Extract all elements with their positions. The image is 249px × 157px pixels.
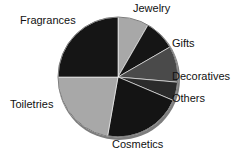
pie-slice-label-jewelry: Jewelry: [133, 2, 170, 14]
pie-slice-fragrances[interactable]: [58, 17, 118, 77]
pie-slice-toiletries[interactable]: [58, 77, 118, 136]
pie-slice-label-decoratives: Decoratives: [172, 70, 230, 82]
pie-slice-label-toiletries: Toiletries: [10, 98, 53, 110]
pie-chart-figure: Jewelry Fragrances Gifts Decoratives Oth…: [0, 0, 249, 157]
pie-slice-label-cosmetics: Cosmetics: [112, 138, 163, 150]
pie-slice-label-others: Others: [172, 92, 205, 104]
pie-slice-label-fragrances: Fragrances: [20, 14, 76, 26]
pie-chart-page: Jewelry Fragrances Gifts Decoratives Oth…: [0, 0, 249, 157]
pie-slice-label-gifts: Gifts: [172, 37, 195, 49]
